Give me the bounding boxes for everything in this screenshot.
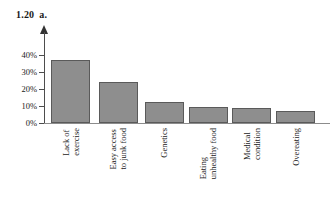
y-axis-label-30: 30% — [21, 68, 37, 77]
x-axis-label-line1: Medical — [242, 132, 252, 160]
y-axis-label-40: 40% — [21, 51, 37, 60]
x-axis-label-overeating: Overeating — [292, 128, 302, 166]
x-axis-label-line1: Easy access — [108, 129, 118, 169]
y-axis-line — [44, 32, 45, 123]
y-axis-tick — [39, 55, 44, 56]
y-axis-tick — [39, 89, 44, 90]
x-axis-label-line1: Eating — [198, 157, 208, 179]
bar-eating-unhealthy-food[interactable] — [189, 107, 228, 123]
x-axis-label-medical-condition: Medical condition — [243, 128, 262, 160]
x-axis-label-line2: to junk food — [119, 128, 129, 170]
x-axis-label-lack-of-exercise: Lack of exercise — [62, 128, 81, 156]
x-axis-label-line1: Overeating — [291, 128, 301, 166]
bar-easy-access-junk-food[interactable] — [99, 82, 138, 123]
x-axis-label-eating-unhealthy-food: Eating unhealthy food — [199, 128, 218, 179]
x-axis-line — [44, 123, 330, 124]
x-axis-label-line2: exercise — [72, 128, 82, 156]
bar-chart-plot: 40% 30% 20% 10% 0% Lack of exercise Easy… — [0, 0, 334, 202]
bar-genetics[interactable] — [145, 102, 184, 123]
bar-overeating[interactable] — [276, 111, 315, 123]
y-axis-tick — [39, 123, 44, 124]
y-axis-label-20: 20% — [21, 85, 37, 94]
y-axis-label-0: 0% — [26, 119, 37, 128]
y-axis-tick — [39, 106, 44, 107]
x-axis-label-easy-access-junk-food: Easy access to junk food — [109, 128, 128, 170]
y-axis-label-10: 10% — [21, 102, 37, 111]
x-axis-label-line1: Lack of — [61, 130, 71, 156]
x-axis-label-line1: Genetics — [159, 128, 169, 158]
x-axis-label-line2: condition — [253, 128, 263, 160]
x-axis-label-genetics: Genetics — [160, 128, 170, 158]
x-axis-label-line2: unhealthy food — [209, 128, 219, 179]
y-axis-tick — [39, 72, 44, 73]
bar-lack-of-exercise[interactable] — [51, 60, 90, 123]
figure-container: 1.20a. 40% 30% 20% 10% 0% Lack of exerci… — [0, 0, 334, 202]
bar-medical-condition[interactable] — [232, 108, 271, 123]
